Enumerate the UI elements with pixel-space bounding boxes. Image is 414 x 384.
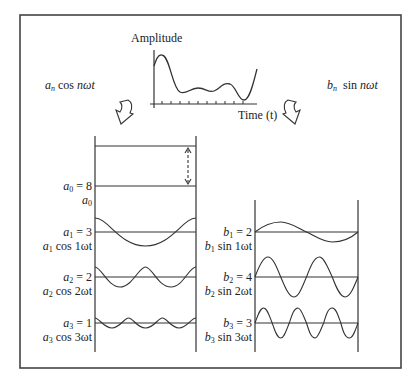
right-branch-label: bn sin nωt [327, 78, 378, 93]
fourier-diagram: Amplitude Time (t) an cos nωt bn sin nωt [0, 0, 414, 384]
curved-down-arrow-left [116, 100, 133, 124]
a3-value-label: a3 = 1 [63, 316, 92, 331]
b2-term-label: b2 sin 2ωt [205, 284, 253, 299]
a2-term-label: a2 cos 2ωt [43, 284, 93, 299]
a1-term-label: a1 cos 1ωt [43, 239, 93, 254]
b1-term-label: b1 sin 1ωt [205, 239, 253, 254]
b1-value-label: b1 = 2 [223, 225, 252, 240]
b3-term-label: b3 sin 3ωt [205, 330, 253, 345]
sine-column [255, 200, 358, 352]
x-axis-label: Time (t) [238, 108, 277, 122]
b3-value-label: b3 = 3 [223, 316, 252, 331]
curved-down-arrow-right [283, 100, 300, 124]
left-branch-label: an cos nωt [45, 78, 95, 93]
signal-curve [154, 55, 257, 100]
signal-plot: Amplitude Time (t) [131, 31, 277, 122]
a2-value-label: a2 = 2 [63, 270, 92, 285]
b2-value-label: b2 = 4 [223, 270, 252, 285]
a0-term-label: a0 [82, 193, 92, 208]
cosine-column [95, 136, 196, 352]
a3-term-label: a3 cos 3ωt [43, 330, 93, 345]
a1-value-label: a1 = 3 [63, 225, 92, 240]
a0-value-label: a0 = 8 [63, 179, 92, 194]
y-axis-label: Amplitude [131, 31, 182, 45]
